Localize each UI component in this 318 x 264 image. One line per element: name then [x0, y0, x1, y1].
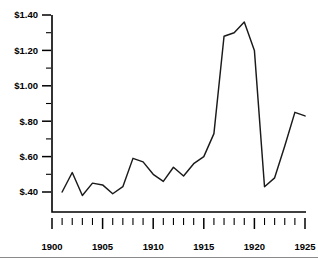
- line-chart: $1.40$1.20$1.00$.80$.60$.40 190019051910…: [0, 0, 318, 264]
- y-axis-tick-label: $.80: [20, 116, 39, 127]
- x-axis-ticks: [52, 218, 305, 229]
- y-axis-ticks: [42, 15, 51, 192]
- x-axis-tick-label: 1915: [193, 241, 215, 252]
- axis-lines: [52, 15, 306, 212]
- y-axis-tick-labels: $1.40$1.20$1.00$.80$.60$.40: [14, 9, 38, 197]
- x-axis-tick-label: 1905: [92, 241, 114, 252]
- y-axis-tick-label: $.40: [20, 186, 39, 197]
- y-axis-tick-label: $1.40: [14, 9, 38, 20]
- x-axis-tick-label: 1900: [41, 241, 62, 252]
- y-axis-tick-label: $1.00: [14, 80, 38, 91]
- x-axis-tick-label: 1925: [294, 241, 316, 252]
- y-axis-tick-label: $1.20: [14, 45, 38, 56]
- y-axis-tick-label: $.60: [20, 151, 39, 162]
- x-axis-tick-labels: 190019051910191519201925: [41, 241, 316, 252]
- x-axis-tick-label: 1920: [244, 241, 265, 252]
- x-axis-tick-label: 1910: [143, 241, 164, 252]
- chart-plot-area: $1.40$1.20$1.00$.80$.60$.40 190019051910…: [0, 0, 318, 264]
- data-series-line: [62, 22, 305, 195]
